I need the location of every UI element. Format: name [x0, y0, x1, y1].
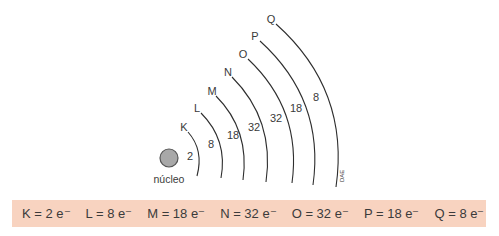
electron-count-q: 8: [313, 91, 319, 103]
strip-item-k: K = 2 e⁻: [22, 206, 71, 221]
shell-label-o: O: [239, 48, 248, 60]
shell-label-n: N: [224, 66, 232, 78]
nucleus-icon: [160, 149, 178, 167]
electron-count-n: 32: [248, 121, 260, 133]
electron-shell-diagram: núcleo K L M N O P Q 2 8 18 32 32 18 8 D…: [0, 0, 499, 200]
electron-count-p: 18: [290, 102, 302, 114]
shell-arc-q: [276, 24, 338, 187]
strip-item-o: O = 32 e⁻: [292, 206, 349, 221]
strip-item-p: P = 18 e⁻: [364, 206, 420, 221]
electron-count-o: 32: [270, 112, 282, 124]
credit-label: DAE: [339, 170, 345, 182]
shell-label-q: Q: [267, 13, 276, 25]
shell-arc-p: [260, 41, 315, 185]
shell-label-l: L: [194, 102, 200, 114]
electron-count-l: 8: [208, 138, 214, 150]
strip-item-l: L = 8 e⁻: [86, 206, 133, 221]
electron-count-k: 2: [187, 150, 193, 162]
electron-count-m: 18: [227, 129, 239, 141]
electron-distribution-strip: K = 2 e⁻ L = 8 e⁻ M = 18 e⁻ N = 32 e⁻ O …: [12, 200, 486, 227]
strip-item-n: N = 32 e⁻: [220, 206, 277, 221]
shell-label-p: P: [251, 30, 258, 42]
strip-item-q: Q = 8 e⁻: [434, 206, 484, 221]
strip-item-m: M = 18 e⁻: [147, 206, 205, 221]
shell-label-m: M: [207, 85, 216, 97]
shell-label-k: K: [180, 121, 188, 133]
nucleus-label: núcleo: [154, 173, 185, 185]
